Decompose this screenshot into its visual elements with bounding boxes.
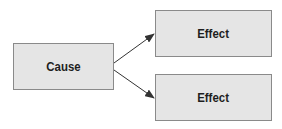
arrow-to-effect-2 — [114, 70, 154, 98]
effect-box-1: Effect — [155, 10, 272, 57]
arrow-to-effect-1 — [114, 34, 154, 63]
cause-label: Cause — [46, 59, 80, 74]
effect-box-2: Effect — [155, 74, 272, 121]
effect-label-2: Effect — [198, 90, 230, 105]
cause-box: Cause — [13, 43, 114, 90]
effect-label-1: Effect — [198, 26, 230, 41]
